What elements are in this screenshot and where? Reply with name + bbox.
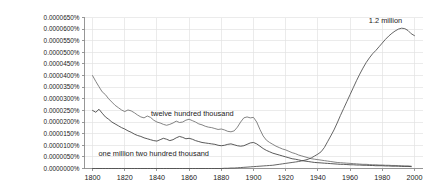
y-axis-tick-label: 0.0000300%: [44, 95, 80, 102]
x-axis-tick-label: 2000: [406, 173, 422, 182]
vertical-gridlines: [93, 18, 415, 169]
y-axis-tick-label: 0.0000250%: [44, 107, 80, 114]
y-axis-tick-label: 0.0000000%: [44, 165, 80, 172]
y-axis-tick-label: 0.0000450%: [44, 60, 80, 67]
y-axis-tick-label: 0.0000650%: [44, 14, 80, 21]
y-axis-tick-label: 0.0000150%: [44, 130, 80, 137]
x-axis-tick-label: 1980: [374, 173, 390, 182]
y-axis-tick-label: 0.0000550%: [44, 37, 80, 44]
series-annotation-label: one million two hundred thousand: [98, 149, 209, 158]
x-axis-tick-label: 1840: [149, 173, 165, 182]
x-axis-tick-label: 1820: [117, 173, 133, 182]
x-axis-tick-label: 1900: [246, 173, 262, 182]
y-axis-tick-labels: 0.0000000%0.0000050%0.0000100%0.0000150%…: [44, 14, 80, 172]
y-axis-tick-label: 0.0000600%: [44, 25, 80, 32]
x-axis-tick-label: 1920: [278, 173, 294, 182]
chart-plot-area: 0.0000000%0.0000050%0.0000100%0.0000150%…: [0, 0, 433, 189]
y-axis-tick-label: 0.0000500%: [44, 49, 80, 56]
ngram-chart: 0.0000000%0.0000050%0.0000100%0.0000150%…: [0, 0, 433, 189]
x-axis-tick-label: 1960: [342, 173, 358, 182]
series-annotation-label: 1.2 million: [369, 16, 402, 25]
y-axis-tick-label: 0.0000200%: [44, 118, 80, 125]
y-axis-tick-label: 0.0000100%: [44, 142, 80, 149]
x-axis-tick-label: 1940: [310, 173, 326, 182]
x-axis-tick-label: 1880: [213, 173, 229, 182]
x-axis-tick-label: 1860: [181, 173, 197, 182]
y-axis-tick-label: 0.0000050%: [44, 153, 80, 160]
x-axis-tick-label: 1800: [85, 173, 101, 182]
y-axis-tick-label: 0.0000400%: [44, 72, 80, 79]
x-axis-tick-labels: 1800182018401860188019001920194019601980…: [85, 173, 423, 182]
y-axis-tick-label: 0.0000350%: [44, 83, 80, 90]
series-annotation-label: twelve hundred thousand: [151, 109, 234, 118]
